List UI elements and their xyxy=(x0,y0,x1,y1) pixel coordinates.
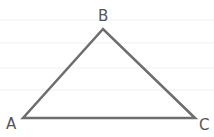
paper-rules xyxy=(0,20,214,90)
vertex-label-a: A xyxy=(6,115,17,133)
vertex-label-c: C xyxy=(199,116,209,134)
diagram-canvas: A B C xyxy=(0,0,214,137)
vertex-label-b: B xyxy=(98,7,108,25)
triangle-diagram: A B C xyxy=(0,0,214,137)
triangle-abc xyxy=(23,29,195,118)
